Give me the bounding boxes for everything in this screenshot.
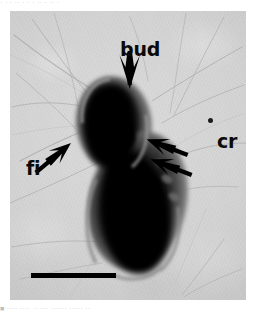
cropped-caption-below-figure: ■ ···· ···· ·· ··· ······ ····· ·· [0,305,257,314]
cropped-text-above-figure: · · · ·· · · · ·· · ·· · [0,0,257,8]
annotation-label-cr: cr [217,132,237,151]
micrograph-panel: bud fi cr [10,11,246,300]
debris-speck [208,118,213,123]
annotation-label-fi: fi [26,159,40,178]
scale-bar [31,273,116,278]
annotation-label-bud: bud [120,40,160,59]
